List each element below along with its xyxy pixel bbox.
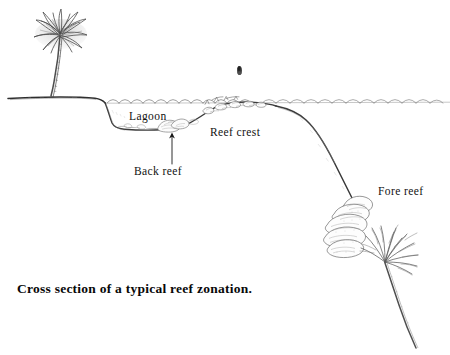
figure-caption: Cross section of a typical reef zonation… [17, 281, 252, 297]
shoreline [8, 97, 105, 103]
brain-coral-mound [324, 196, 373, 257]
water-surface-waves [105, 100, 450, 104]
sea-fan-coral [360, 225, 418, 348]
reef-zonation-figure: Lagoon Back reef Reef crest Fore reef Cr… [0, 0, 450, 355]
distant-bird-icon [237, 66, 242, 75]
label-back-reef: Back reef [134, 165, 182, 177]
label-reef-crest: Reef crest [210, 126, 260, 138]
fore-reef-slope [276, 106, 354, 202]
back-reef-arrow [169, 133, 175, 164]
reef-crest-rubble [203, 96, 276, 113]
label-lagoon: Lagoon [129, 110, 167, 122]
palm-tree-icon [34, 9, 87, 97]
label-fore-reef: Fore reef [378, 185, 423, 197]
reef-cross-section-illustration [0, 0, 450, 355]
